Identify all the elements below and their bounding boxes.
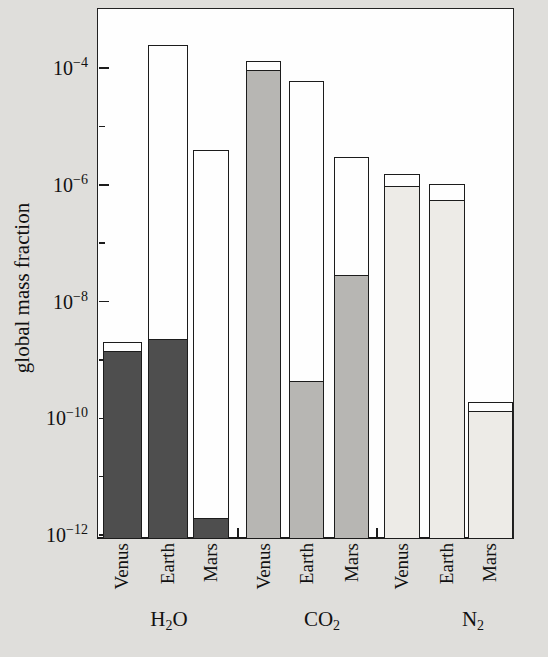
y-tick-label: 10−10 (46, 406, 88, 430)
group-label-co2: CO2 (272, 606, 372, 632)
y-minor-tick (99, 126, 105, 128)
bar-fill-h2ovenus (104, 351, 142, 539)
y-tick-label: 10−4 (53, 56, 88, 80)
y-tick-label: 10−8 (53, 290, 88, 314)
bar-fill-co2venus (247, 70, 280, 538)
x-tick-label-h2omars: Mars (200, 543, 222, 613)
x-tick-label-h2oearth: Earth (157, 543, 179, 613)
bar-fill-co2earth (290, 381, 323, 538)
bar-fill-h2oearth (149, 339, 187, 539)
bar-fill-n2mars (469, 411, 512, 539)
y-major-tick (99, 301, 109, 303)
bar-co2venus (246, 61, 281, 539)
x-tick-label-co2venus: Venus (253, 543, 275, 613)
bar-h2ovenus (103, 342, 143, 539)
y-minor-tick (99, 242, 105, 244)
group-label-n2: N2 (423, 606, 523, 632)
y-axis-label: global mass fraction (9, 138, 35, 438)
y-major-tick (99, 67, 109, 69)
bar-fill-h2omars (194, 518, 228, 538)
y-major-tick (99, 184, 109, 186)
y-tick-label: 10−12 (46, 523, 88, 547)
x-tick-label-n2mars: Mars (479, 543, 501, 613)
y-tick-label: 10−6 (53, 173, 88, 197)
x-tick-label-n2venus: Venus (391, 543, 413, 613)
x-group-separator-tick (237, 528, 239, 537)
x-tick-label-h2ovenus: Venus (111, 543, 133, 613)
bar-co2mars (334, 157, 369, 540)
bar-h2omars (193, 150, 229, 540)
group-label-h2o: H2O (119, 606, 219, 632)
bar-n2venus (384, 174, 420, 539)
bar-n2earth (429, 184, 465, 540)
bar-h2oearth (148, 45, 188, 540)
bar-fill-co2mars (335, 275, 368, 539)
bar-co2earth (289, 81, 324, 540)
figure-canvas: global mass fraction 10−410−610−810−1010… (0, 0, 548, 657)
bar-fill-n2earth (430, 200, 464, 538)
bar-n2mars (468, 402, 513, 540)
x-tick-label-n2earth: Earth (436, 543, 458, 613)
x-group-separator-tick (376, 528, 378, 537)
bar-fill-n2venus (385, 186, 419, 539)
x-tick-label-co2mars: Mars (341, 543, 363, 613)
x-tick-label-co2earth: Earth (296, 543, 318, 613)
